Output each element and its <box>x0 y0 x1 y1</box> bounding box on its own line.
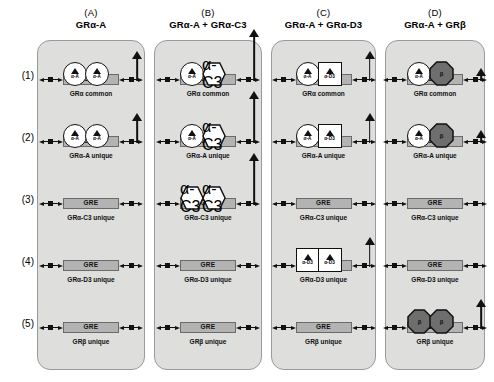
dna-flank-right <box>236 264 260 268</box>
promoter-cassette: GREα-AβGRα-A unique <box>383 111 487 157</box>
receptor-label: β <box>440 133 444 139</box>
promoter-cassette: GREββGRβ unique <box>383 297 487 343</box>
cell-caption: GRβ unique <box>305 339 342 346</box>
gre-label: GRE <box>84 200 99 207</box>
gre-label: GRE <box>201 262 216 269</box>
dna-arrowhead-left <box>383 78 388 82</box>
gre-label: GRE <box>316 324 331 331</box>
dna-arrowhead-left <box>119 78 124 82</box>
panel-d: GREα-AβGRα commonGREα-AβGRα-A uniqueGREG… <box>385 40 485 370</box>
receptor-label: α-D3 <box>324 75 335 80</box>
dna-flank-left <box>383 202 407 206</box>
cell-caption: GRα-C3 unique <box>67 215 114 222</box>
dna-arrowhead-left <box>463 202 468 206</box>
dna-arrowhead-left <box>352 140 357 144</box>
promoter-cassette: GREGRα-D3 unique <box>39 235 143 281</box>
dna-arrowhead-left <box>236 326 241 330</box>
dna-arrowhead-left <box>352 326 357 330</box>
column-title: GRα-A + GRα-C3 <box>154 20 262 31</box>
dna-strand-bar: GRE <box>272 322 376 333</box>
dna-block <box>281 325 286 330</box>
cell-caption: GRα common <box>302 91 345 98</box>
promoter-cassette: GREGRα-C3 unique <box>39 173 143 219</box>
gre-element: GRE <box>63 198 119 209</box>
panel-c: GREα-Aα-D3GRα commonGREα-Aα-D3GRα-A uniq… <box>271 40 376 370</box>
figure-canvas: (A)GRα-A(B)GRα-A + GRα-C3(C)GRα-A + GRα-… <box>0 0 494 382</box>
dna-block <box>281 201 286 206</box>
receptor-alpha-D3: α-D3 <box>318 62 342 86</box>
dna-flank-right <box>463 264 487 268</box>
diagram-cell: GREGRβ unique <box>38 297 144 359</box>
gre-element: GRE <box>296 198 352 209</box>
promoter-cassette: GREα-D3α-D3GRα-D3 unique <box>272 235 376 281</box>
dna-block <box>129 201 134 206</box>
transcription-arrow-medium <box>131 113 143 143</box>
arrow-head-icon <box>249 29 259 37</box>
dna-flank-left <box>156 264 180 268</box>
arrow-shaft <box>480 307 482 329</box>
gre-element: GRE <box>63 322 119 333</box>
dna-flank-left <box>272 78 296 82</box>
dna-arrowhead-left <box>119 326 124 330</box>
dna-block <box>281 263 286 268</box>
dna-flank-left <box>156 202 180 206</box>
receptor-label: β <box>440 71 444 77</box>
receptor-alpha-C3: α-C3 <box>202 186 226 210</box>
receptor-label: α-A <box>71 75 79 80</box>
diagram-cell: GREββGRβ unique <box>386 297 484 359</box>
diagram-cell: GREα-Aα-D3GRα common <box>272 49 375 111</box>
dna-arrowhead-left <box>156 202 161 206</box>
transcription-arrow-tall <box>248 29 260 81</box>
column-header-2: (C)GRα-A + GRα-D3 <box>271 8 376 31</box>
dna-strand-bar: GRE <box>39 260 143 271</box>
column-letter: (D) <box>385 8 485 19</box>
dna-flank-left <box>272 140 296 144</box>
cell-caption: GRα-D3 unique <box>411 277 458 284</box>
dna-flank-right <box>236 326 260 330</box>
receptor-alpha-A: α-A <box>407 124 431 148</box>
dna-arrowhead-right <box>138 326 143 330</box>
dna-arrowhead-left <box>119 140 124 144</box>
arrow-shaft <box>253 99 255 143</box>
transcription-arrow-tall <box>248 153 260 205</box>
dna-arrowhead-right <box>138 202 143 206</box>
column-title: GRα-A + GRα-D3 <box>271 20 376 31</box>
dna-arrowhead-left <box>272 78 277 82</box>
receptor-label: α-A <box>188 137 196 142</box>
dna-block <box>129 263 134 268</box>
promoter-cassette: GREGRα-C3 unique <box>383 173 487 219</box>
dna-arrowhead-left <box>236 264 241 268</box>
cell-caption: GRα-A unique <box>69 153 112 160</box>
dna-flank-right <box>119 264 143 268</box>
dna-arrowhead-left <box>463 78 468 82</box>
diagram-cell: GREα-C3α-C3GRα-C3 unique <box>155 173 261 235</box>
promoter-cassette: GREα-Aα-AGRα-A unique <box>39 111 143 157</box>
receptor-alpha-A: α-A <box>296 62 320 86</box>
receptor-label: α-D3 <box>324 137 335 142</box>
transcription-arrow-medium <box>364 113 376 143</box>
receptor-alpha-D3: α-D3 <box>318 248 342 272</box>
arrow-head-icon <box>249 91 259 99</box>
gre-element: GRE <box>407 260 463 271</box>
cell-caption: GRα common <box>70 91 113 98</box>
cell-caption: GRα common <box>187 91 230 98</box>
arrow-shaft <box>480 138 482 143</box>
dna-arrowhead-left <box>156 78 161 82</box>
dna-block <box>281 139 286 144</box>
receptor-alpha-C3: α-C3 <box>180 186 204 210</box>
gre-element: GRE <box>180 322 236 333</box>
diagram-cell: GREGRα-C3 unique <box>272 173 375 235</box>
diagram-cell: GREα-Aα-C3GRα-A unique <box>155 111 261 173</box>
dna-arrowhead-left <box>39 326 44 330</box>
arrow-head-icon <box>132 51 142 59</box>
dna-arrowhead-left <box>383 326 388 330</box>
dna-arrowhead-left <box>352 264 357 268</box>
cell-caption: GRβ unique <box>190 339 227 346</box>
dna-flank-left <box>383 140 407 144</box>
dna-block <box>165 77 170 82</box>
promoter-cassette: GREGRβ unique <box>39 297 143 343</box>
arrow-head-icon <box>365 237 375 245</box>
receptor-label: α-C3 <box>202 56 226 92</box>
row-label-1: (1) <box>6 70 34 81</box>
arrow-shaft <box>136 59 138 81</box>
